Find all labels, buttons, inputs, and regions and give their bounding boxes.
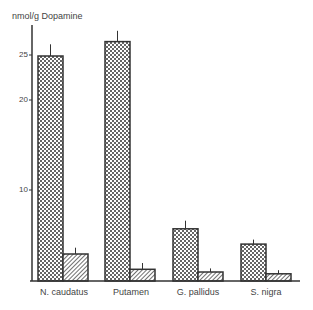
bar [241,244,266,281]
bar-chart: nmol/g Dopamine 25 20 10 N. caudatus Put… [0,0,313,310]
category-label: S. nigra [238,287,294,297]
plot-area [0,0,313,310]
category-label: Putamen [103,287,159,297]
bar [63,254,88,281]
category-label: N. caudatus [36,287,92,297]
bar [130,269,155,281]
bar [266,274,291,281]
bar [198,272,223,281]
bar [173,229,198,281]
bar [105,42,130,281]
bar [38,56,63,281]
category-label: G. pallidus [168,287,228,297]
